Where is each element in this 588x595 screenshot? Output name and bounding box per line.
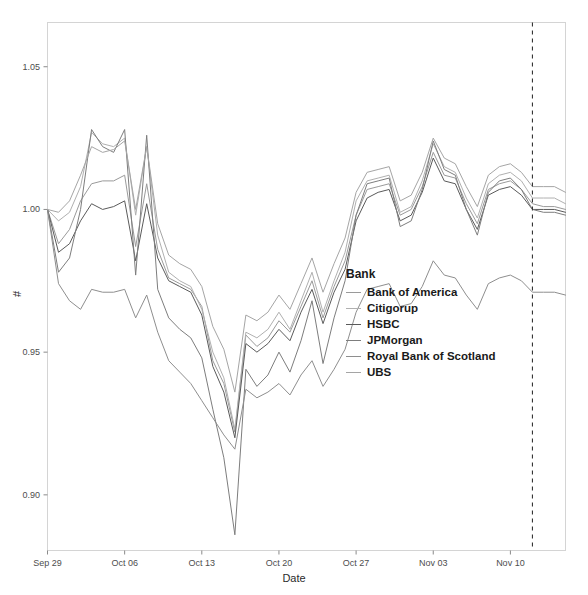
legend-item[interactable]: JPMorgan <box>345 332 535 348</box>
x-axis-title: Date <box>0 572 588 584</box>
legend-color-swatch-icon <box>345 284 362 300</box>
x-axis-tick-label: Nov 10 <box>496 558 525 568</box>
legend-item-label: Bank of America <box>367 284 457 300</box>
y-axis-tick-label: 1.00 <box>8 204 40 214</box>
y-axis-tick-label: 0.90 <box>8 490 40 500</box>
legend-item-label: JPMorgan <box>367 332 423 348</box>
legend-color-swatch-icon <box>345 332 362 348</box>
legend-item[interactable]: Bank of America <box>345 284 535 300</box>
x-axis-tick-label: Oct 13 <box>189 558 216 568</box>
x-axis-tick-label: Sep 29 <box>33 558 62 568</box>
x-axis-tick-label: Nov 03 <box>419 558 448 568</box>
y-axis-title: # <box>11 291 23 297</box>
line-chart: 0.900.951.001.05 Sep 29Oct 06Oct 13Oct 2… <box>0 0 588 595</box>
x-axis-tick-label: Oct 27 <box>343 558 370 568</box>
legend-item-label: HSBC <box>367 316 400 332</box>
legend-item[interactable]: Citigorup <box>345 300 535 316</box>
x-axis-tick-label: Oct 06 <box>111 558 138 568</box>
legend-item-label: Citigorup <box>367 300 418 316</box>
y-axis-tick-label: 1.05 <box>8 62 40 72</box>
legend: Bank Bank of AmericaCitigorupHSBCJPMorga… <box>345 267 535 380</box>
legend-color-swatch-icon <box>345 316 362 332</box>
y-axis-tick-label: 0.95 <box>8 347 40 357</box>
x-axis-tick-label: Oct 20 <box>266 558 293 568</box>
legend-title: Bank <box>345 267 535 281</box>
legend-color-swatch-icon <box>345 300 362 316</box>
legend-item-label: UBS <box>367 364 391 380</box>
legend-items: Bank of AmericaCitigorupHSBCJPMorganRoya… <box>345 284 535 380</box>
legend-item[interactable]: UBS <box>345 364 535 380</box>
legend-color-swatch-icon <box>345 364 362 380</box>
legend-item[interactable]: Royal Bank of Scotland <box>345 348 535 364</box>
legend-item-label: Royal Bank of Scotland <box>367 348 495 364</box>
legend-item[interactable]: HSBC <box>345 316 535 332</box>
legend-color-swatch-icon <box>345 348 362 364</box>
